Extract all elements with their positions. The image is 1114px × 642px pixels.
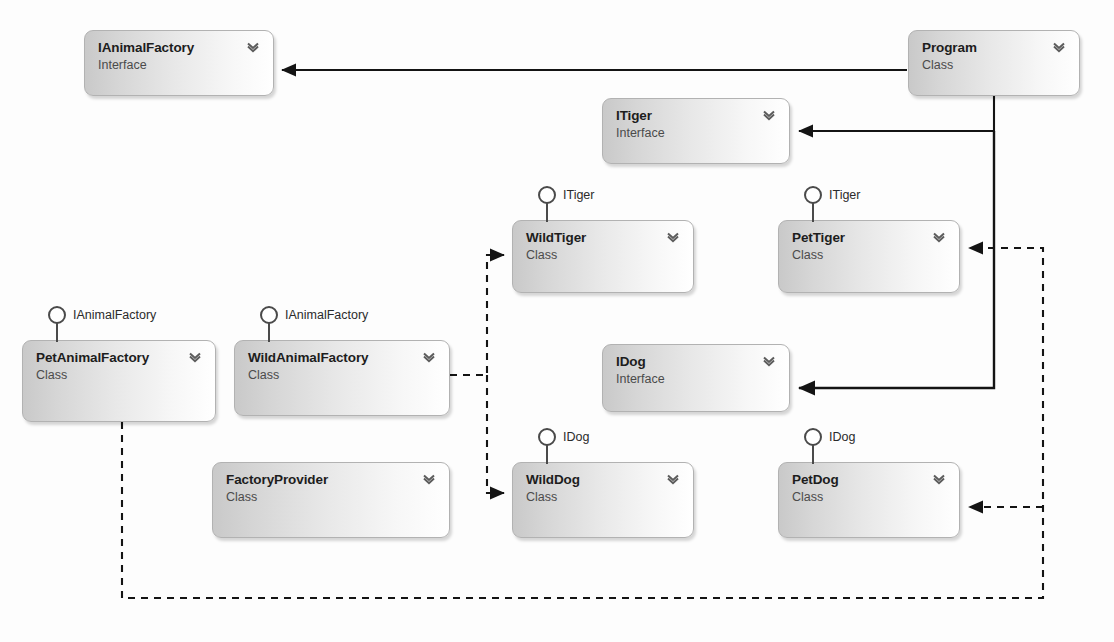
lollipop-label-wilddog: IDog <box>563 430 589 444</box>
lollipop-wildanimalfactory <box>256 305 282 345</box>
lollipop-label-wildtiger: ITiger <box>563 188 595 202</box>
lollipop-label-wildanimalfactory: IAnimalFactory <box>285 308 368 322</box>
node-title: WildTiger <box>526 230 681 245</box>
class-node-wilddog[interactable]: WildDog Class <box>512 462 694 538</box>
chevron-down-icon[interactable] <box>932 472 946 486</box>
node-kind: Class <box>792 247 947 263</box>
lollipop-petanimalfactory <box>44 305 70 345</box>
edge-wildanimalfactory-to-wildtiger <box>450 255 504 375</box>
class-diagram-canvas[interactable]: ITiger ITiger IAnimalFactory IAnimalFact… <box>0 0 1114 642</box>
class-node-itiger[interactable]: ITiger Interface <box>602 98 790 164</box>
chevron-down-icon[interactable] <box>762 108 776 122</box>
edge-petanimalfactory-to-pettiger <box>122 248 1043 598</box>
node-title: WildAnimalFactory <box>248 350 437 365</box>
chevron-down-icon[interactable] <box>422 350 436 364</box>
class-node-ianimalfactory[interactable]: IAnimalFactory Interface <box>84 30 274 96</box>
node-kind: Interface <box>616 125 777 141</box>
chevron-down-icon[interactable] <box>188 350 202 364</box>
chevron-down-icon[interactable] <box>422 472 436 486</box>
lollipop-label-pettiger: ITiger <box>829 188 861 202</box>
node-kind: Class <box>248 367 437 383</box>
node-title: PetTiger <box>792 230 947 245</box>
node-title: IAnimalFactory <box>98 40 261 55</box>
chevron-down-icon[interactable] <box>762 354 776 368</box>
chevron-down-icon[interactable] <box>666 230 680 244</box>
node-kind: Class <box>922 57 1067 73</box>
class-node-factoryprovider[interactable]: FactoryProvider Class <box>212 462 450 538</box>
chevron-down-icon[interactable] <box>246 40 260 54</box>
class-node-pettiger[interactable]: PetTiger Class <box>778 220 960 293</box>
lollipop-label-petdog: IDog <box>829 430 855 444</box>
node-title: Program <box>922 40 1067 55</box>
class-node-idog[interactable]: IDog Interface <box>602 344 790 412</box>
class-node-program[interactable]: Program Class <box>908 30 1080 96</box>
lollipop-label-petanimalfactory: IAnimalFactory <box>73 308 156 322</box>
node-title: PetDog <box>792 472 947 487</box>
lollipop-petdog <box>800 427 826 467</box>
node-kind: Class <box>792 489 947 505</box>
node-title: IDog <box>616 354 777 369</box>
node-kind: Class <box>226 489 437 505</box>
edge-program-to-itiger <box>799 96 994 131</box>
class-node-petanimalfactory[interactable]: PetAnimalFactory Class <box>22 340 216 422</box>
edge-wildanimalfactory-to-wilddog <box>487 375 504 493</box>
chevron-down-icon[interactable] <box>1052 40 1066 54</box>
node-title: PetAnimalFactory <box>36 350 203 365</box>
class-node-wildanimalfactory[interactable]: WildAnimalFactory Class <box>234 340 450 416</box>
diagram-edges-layer <box>0 0 1114 642</box>
chevron-down-icon[interactable] <box>666 472 680 486</box>
lollipop-pettiger <box>800 185 826 225</box>
node-kind: Class <box>526 247 681 263</box>
node-title: WildDog <box>526 472 681 487</box>
lollipop-wilddog <box>534 427 560 467</box>
node-kind: Class <box>36 367 203 383</box>
node-title: ITiger <box>616 108 777 123</box>
node-kind: Interface <box>98 57 261 73</box>
node-kind: Interface <box>616 371 777 387</box>
node-title: FactoryProvider <box>226 472 437 487</box>
lollipop-wildtiger <box>534 185 560 225</box>
node-kind: Class <box>526 489 681 505</box>
class-node-wildtiger[interactable]: WildTiger Class <box>512 220 694 293</box>
class-node-petdog[interactable]: PetDog Class <box>778 462 960 538</box>
chevron-down-icon[interactable] <box>932 230 946 244</box>
